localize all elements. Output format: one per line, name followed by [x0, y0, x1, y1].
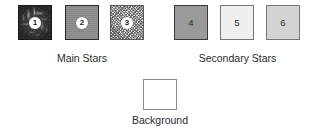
swatch-number-6: 6 [280, 18, 285, 28]
swatch-number-4: 4 [188, 18, 193, 28]
caption-background: Background [100, 114, 220, 126]
swatch-number-5: 5 [234, 18, 239, 28]
swatch-main-star-1[interactable]: 1 [18, 5, 52, 40]
swatch-background[interactable] [143, 79, 177, 110]
swatch-number-badge-3: 3 [121, 17, 133, 29]
swatch-main-star-3[interactable]: 3 [110, 5, 144, 40]
swatch-number-badge-2: 2 [76, 17, 88, 29]
swatch-secondary-star-4[interactable]: 4 [174, 5, 208, 40]
swatch-secondary-star-6[interactable]: 6 [266, 5, 300, 40]
swatch-secondary-star-5[interactable]: 5 [220, 5, 254, 40]
swatch-main-star-2[interactable]: 2 [65, 5, 99, 40]
caption-main-stars: Main Stars [0, 52, 164, 64]
swatch-number-badge-1: 1 [29, 17, 41, 29]
caption-secondary-stars: Secondary Stars [160, 52, 315, 64]
swatch-legend-figure: 1 2 3 4 5 6 Main Stars Secondary Stars B… [0, 0, 315, 140]
